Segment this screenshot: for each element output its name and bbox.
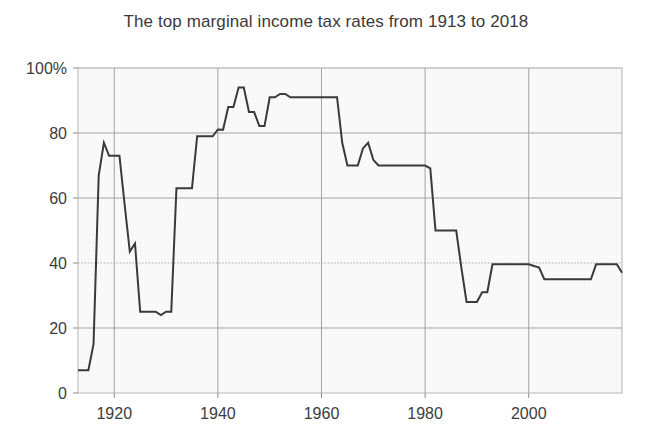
y-tick-label: 20 — [49, 320, 67, 337]
x-tick-label: 2000 — [511, 405, 547, 422]
x-tick-label: 1920 — [96, 405, 132, 422]
y-axis-labels: 020406080100% — [26, 60, 67, 402]
y-tick-label: 40 — [49, 255, 67, 272]
x-tick-label: 1960 — [304, 405, 340, 422]
x-tick-label: 1980 — [407, 405, 443, 422]
chart-figure: The top marginal income tax rates from 1… — [0, 0, 652, 435]
x-axis-labels: 19201940196019802000 — [96, 405, 546, 422]
y-tick-label: 80 — [49, 125, 67, 142]
x-tick-label: 1940 — [200, 405, 236, 422]
y-tick-label: 100% — [26, 60, 67, 77]
y-tick-label: 0 — [58, 385, 67, 402]
line-chart-plot-area: 020406080100% 19201940196019802000 — [0, 0, 652, 435]
y-tick-label: 60 — [49, 190, 67, 207]
